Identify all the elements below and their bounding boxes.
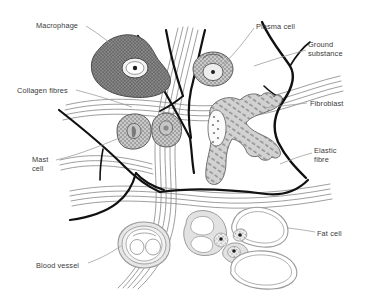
connective-tissue-diagram: Macrophage Collagen fibres Mast cell Blo… [0,0,366,295]
fat-cell-group [184,207,297,289]
plasma-cell [193,52,233,86]
label-elastic-fibre: Elastic fibre [314,146,336,164]
label-ground-substance: Ground substance [308,40,343,58]
leader-macrophage [86,26,112,45]
label-fat-cell: Fat cell [317,229,342,238]
label-plasma-cell: Plasma cell [256,22,295,31]
blood-vessel [118,222,170,268]
macrophage-cell [91,35,170,98]
leader-blood-vessel [88,246,121,263]
label-collagen-fibres: Collagen fibres [17,86,68,95]
leader-fat-cell [288,228,315,232]
label-macrophage: Macrophage [36,21,78,30]
label-mast-cell: Mast cell [32,155,48,173]
mast-cell-group [117,113,182,149]
fibroblast-cell [206,93,282,185]
label-blood-vessel: Blood vessel [36,261,79,270]
label-fibroblast: Fibroblast [310,99,343,108]
